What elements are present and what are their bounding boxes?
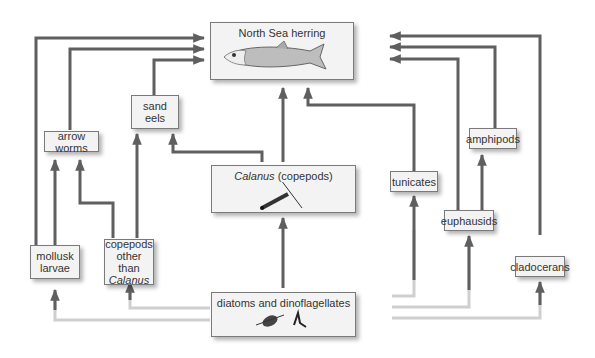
node-north-sea-herring: North Sea herring <box>210 22 354 80</box>
node-mollusk-larvae: mollusk larvae <box>30 245 80 279</box>
node-arrow-worms: arrow worms <box>44 131 99 152</box>
node-copepods-other: copepods other than Calanus <box>104 239 154 285</box>
node-cladocerans: cladocerans <box>515 256 565 277</box>
arrow-calanus-to-sandeels <box>173 134 262 162</box>
node-amphipods: amphipods <box>469 128 517 149</box>
phytoplankton-icon <box>254 309 314 331</box>
copepod-icon <box>254 182 314 212</box>
arrow-sandeels-to-herring <box>154 60 204 95</box>
node-diatoms-dinoflagellates: diatoms and dinoflagellates <box>211 292 356 337</box>
diatoms-label: diatoms and dinoflagellates <box>217 297 350 309</box>
node-tunicates: tunicates <box>390 171 438 192</box>
herring-label: North Sea herring <box>239 27 326 39</box>
arrow-copepods-to-arrowworms <box>80 160 113 238</box>
calanus-label: Calanus (copepods) <box>234 170 332 182</box>
herring-fish-icon <box>220 39 344 73</box>
node-calanus-copepods: Calanus (copepods) <box>211 165 356 213</box>
node-sand-eels: sand eels <box>131 95 179 129</box>
node-euphausids: euphausids <box>444 210 494 231</box>
arrow-tunicates-to-herring <box>308 88 414 172</box>
